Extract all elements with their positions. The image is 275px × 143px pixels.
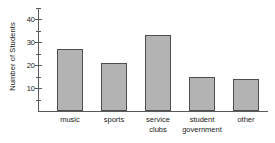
- y-tick-label: 20: [27, 61, 35, 70]
- y-tick-major: [35, 65, 42, 66]
- bar: [233, 79, 259, 111]
- y-tick-minor: [36, 31, 41, 32]
- y-tick-minor: [36, 77, 41, 78]
- y-tick-minor: [36, 100, 41, 101]
- bar: [189, 77, 215, 111]
- y-tick-major: [35, 42, 42, 43]
- plot-area: 10203040 musicsportsserviceclubsstudentg…: [38, 8, 270, 112]
- y-tick-minor: [36, 8, 41, 9]
- x-tick-label-line: government: [174, 125, 230, 135]
- y-tick-major: [35, 19, 42, 20]
- y-tick-major: [35, 88, 42, 89]
- bar: [57, 49, 83, 111]
- y-tick-label: 40: [27, 15, 35, 24]
- y-axis-title: Number of Students: [8, 9, 17, 105]
- y-tick-label: 30: [27, 38, 35, 47]
- y-axis-line: [38, 8, 39, 112]
- x-axis-line: [38, 111, 268, 112]
- bar: [145, 35, 171, 111]
- y-tick-minor: [36, 54, 41, 55]
- bar-chart: Number of Students 10203040 musicsportss…: [0, 0, 275, 143]
- x-tick-label: other: [218, 115, 274, 125]
- bar: [101, 63, 127, 111]
- x-tick-label-line: other: [218, 115, 274, 125]
- y-tick-label: 10: [27, 84, 35, 93]
